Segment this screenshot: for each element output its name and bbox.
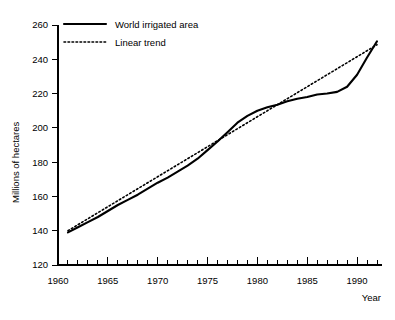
y-axis: 120140160180200220240260 Millions of hec… (10, 19, 58, 270)
x-tick-label: 1985 (297, 275, 318, 286)
y-axis-ticks (52, 25, 58, 265)
x-tick-label: 1990 (347, 275, 368, 286)
x-tick-label: 1960 (47, 275, 68, 286)
chart-legend: World irrigated area Linear trend (64, 19, 199, 48)
y-tick-label: 240 (32, 54, 48, 65)
y-tick-label: 180 (32, 157, 48, 168)
legend-label-world-irrigated-area: World irrigated area (115, 19, 199, 30)
x-tick-label: 1980 (247, 275, 268, 286)
y-tick-label: 120 (32, 259, 48, 270)
x-axis: 1960196519701975198019851990 Year (47, 257, 382, 303)
legend-label-linear-trend: Linear trend (115, 37, 166, 48)
y-axis-title: Millions of hectares (10, 121, 21, 203)
chart-page: 120140160180200220240260 Millions of hec… (0, 0, 395, 320)
y-tick-label: 260 (32, 19, 48, 30)
x-axis-tick-labels: 1960196519701975198019851990 (47, 275, 367, 286)
line-chart: 120140160180200220240260 Millions of hec… (0, 0, 395, 320)
y-tick-label: 160 (32, 191, 48, 202)
x-tick-label: 1970 (147, 275, 168, 286)
x-tick-label: 1965 (97, 275, 118, 286)
x-axis-ticks (58, 257, 357, 265)
x-tick-label: 1975 (197, 275, 218, 286)
x-axis-minor-ticks (68, 260, 377, 265)
x-axis-title: Year (362, 292, 381, 303)
y-tick-label: 200 (32, 122, 48, 133)
y-axis-tick-labels: 120140160180200220240260 (32, 19, 48, 270)
data-series-group (68, 41, 377, 232)
y-tick-label: 140 (32, 225, 48, 236)
series-line-linear-trend (68, 45, 377, 231)
y-tick-label: 220 (32, 88, 48, 99)
